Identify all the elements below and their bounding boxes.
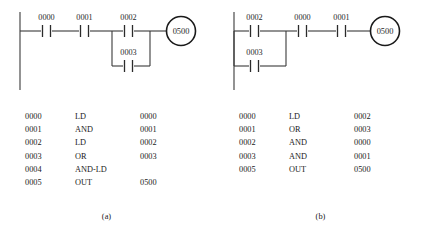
ladder-diagram-a: 0000 0001 0002 0003 [0,0,213,100]
instruction-operation: AND [75,123,127,136]
instruction-operation: LD [75,110,127,123]
instruction-operand: 0000 [354,136,392,149]
contact-0001: 0001 [76,13,92,37]
contact-label: 0003 [120,48,136,57]
instruction-operand: 0000 [140,110,178,123]
instruction-operand: 0003 [354,123,392,136]
instruction-address: 0002 [239,136,277,149]
instruction-operand: 0002 [354,110,392,123]
instruction-operation: OR [289,123,341,136]
instruction-address: 0004 [25,163,63,176]
figure-caption-a: (a) [0,212,213,221]
instruction-operation: AND [289,136,341,149]
contact-label: 0002 [120,13,136,22]
instruction-operation: OR [75,150,127,163]
contact-0003: 0003 [120,48,136,72]
contact-label: 0000 [38,13,54,22]
contact-label: 0002 [246,13,262,22]
coil-label: 0500 [377,27,394,36]
instruction-address: 0001 [239,123,277,136]
contact-0000: 0000 [294,13,310,37]
instruction-operation: OUT [289,163,341,176]
contact-label: 0000 [294,13,310,22]
contact-0000: 0000 [38,13,54,37]
instruction-operation: LD [75,136,127,149]
instruction-address: 0002 [25,136,63,149]
contact-0002: 0002 [120,13,136,37]
contact-0001: 0001 [333,13,349,37]
instruction-address: 0000 [25,110,63,123]
instruction-operation: AND [289,150,341,163]
instruction-address: 0005 [239,163,277,176]
instruction-operand: 0003 [140,150,178,163]
instruction-address: 0003 [239,150,277,163]
instruction-address: 0001 [25,123,63,136]
figure-panel-a: 0000 0001 0002 0003 [0,0,213,241]
ladder-diagram-b: 0002 0003 0000 0001 0500 [214,0,427,100]
contact-label: 0003 [246,48,262,57]
instruction-operation: OUT [75,176,127,189]
output-coil-0500: 0500 [167,17,196,46]
instruction-operand: 0002 [140,136,178,149]
output-coil-0500: 0500 [371,17,400,46]
contact-0002: 0002 [246,13,262,37]
instruction-address: 0005 [25,176,63,189]
instruction-address: 0003 [25,150,63,163]
instruction-operation: AND-LD [75,163,127,176]
figure-caption-b: (b) [214,212,427,221]
instruction-operand: 0001 [140,123,178,136]
instruction-operand: 0500 [354,163,392,176]
instruction-operand: 0001 [354,150,392,163]
contact-0003: 0003 [246,48,262,72]
coil-label: 0500 [173,27,190,36]
instruction-operand: 0500 [140,176,178,189]
figure-panel-b: 0002 0003 0000 0001 0500 [214,0,427,241]
instruction-address: 0000 [239,110,277,123]
contact-label: 0001 [76,13,92,22]
instruction-operation: LD [289,110,341,123]
contact-label: 0001 [333,13,349,22]
